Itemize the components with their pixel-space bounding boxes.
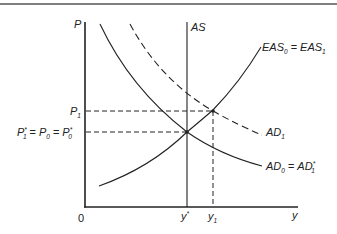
ad1-curve	[130, 24, 262, 135]
ad0-curve	[100, 24, 262, 166]
as-label: AS	[190, 21, 206, 33]
y1-label: y1	[207, 210, 218, 224]
p0-label: P*1=P0=P*0	[17, 126, 73, 140]
ad0-label: AD0=AD*1	[265, 160, 316, 174]
p1-label: P1	[70, 105, 81, 119]
eas-label: EAS0=EAS1	[262, 41, 326, 55]
ad1-label: AD1	[265, 126, 285, 140]
eas-curve	[99, 47, 261, 186]
y-axis-label: y	[291, 209, 299, 221]
equilibrium-point-1	[211, 109, 215, 113]
equilibrium-point-0	[185, 130, 189, 134]
origin-label: 0	[78, 212, 84, 224]
p-axis-label: P	[74, 18, 82, 30]
ystar-label: y*	[180, 210, 190, 222]
ad-as-diagram: P y 0 AS EAS0=EAS1 AD1 AD0=AD*1 P1 P*1=P…	[0, 0, 337, 234]
